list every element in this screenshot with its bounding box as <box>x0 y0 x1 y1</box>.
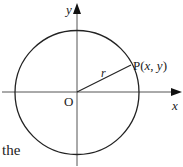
radius-label: r <box>101 66 106 80</box>
origin-label: O <box>64 94 73 109</box>
y-axis-label: y <box>64 2 72 17</box>
caption-text: the <box>2 142 20 159</box>
point-label: P(x, y) <box>133 58 167 73</box>
circle-diagram: y x O r P(x, y) <box>0 0 183 167</box>
x-axis-label: x <box>171 98 178 113</box>
x-axis-arrow-icon <box>171 88 182 96</box>
y-axis-arrow-icon <box>73 3 81 14</box>
